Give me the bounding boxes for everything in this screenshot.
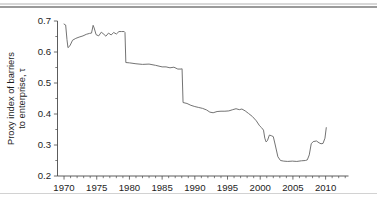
y-axis-label-line1: Proxy index of barriers — [6, 52, 16, 145]
x-tick-label: 1980 — [119, 182, 140, 193]
y-axis-label-group: Proxy index of barriers to enterprise, τ — [6, 52, 27, 145]
x-tick-labels: 197019751980198519901995200020052010 — [53, 182, 336, 193]
y-axis-label-line2: to enterprise, τ — [17, 68, 27, 129]
x-axis-group: 197019751980198519901995200020052010 — [53, 176, 348, 193]
data-series-line — [64, 24, 326, 161]
y-tick-label: 0.5 — [38, 77, 51, 88]
x-tick-label: 1990 — [184, 182, 205, 193]
y-tick-label: 0.7 — [38, 15, 51, 26]
y-tick-label: 0.4 — [38, 108, 52, 119]
x-tick-label: 1975 — [86, 182, 107, 193]
y-tick-label: 0.2 — [38, 170, 51, 181]
x-tick-label: 2010 — [315, 182, 336, 193]
y-axis-group: 0.20.30.40.50.60.7 — [38, 15, 58, 181]
x-tick-label: 2000 — [250, 182, 271, 193]
x-tick-label: 1970 — [53, 182, 74, 193]
series-group — [64, 24, 326, 161]
y-tick-label: 0.3 — [38, 139, 51, 150]
x-tick-label: 1995 — [217, 182, 238, 193]
x-tick-label: 2005 — [282, 182, 303, 193]
y-tick-marks — [54, 21, 58, 176]
plot-area: 0.20.30.40.50.60.7 197019751980198519901… — [0, 0, 377, 200]
y-tick-labels: 0.20.30.40.50.60.7 — [38, 15, 52, 181]
x-tick-marks — [64, 176, 345, 180]
line-chart: 0.20.30.40.50.60.7 197019751980198519901… — [0, 0, 377, 200]
x-tick-label: 1985 — [151, 182, 172, 193]
figure-container: 0.20.30.40.50.60.7 197019751980198519901… — [0, 0, 377, 200]
y-tick-label: 0.6 — [38, 46, 51, 57]
